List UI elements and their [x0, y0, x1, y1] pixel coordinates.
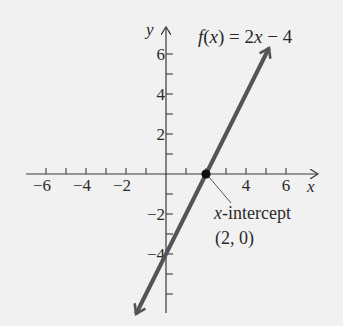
- y-tick-label: 6: [157, 45, 166, 64]
- x-intercept-coords: (2, 0): [215, 228, 254, 249]
- y-tick-label: 2: [157, 125, 166, 144]
- y-axis-label: y: [144, 20, 154, 39]
- y-axis-tick-labels: 642−2−4: [147, 45, 166, 264]
- y-tick-label: 4: [157, 85, 166, 104]
- x-axis-label: x: [306, 177, 315, 196]
- x-intercept-leader-line: [209, 177, 231, 203]
- y-tick-label: −2: [147, 205, 165, 224]
- x-tick-label: 4: [242, 176, 251, 195]
- x-tick-label: −4: [73, 176, 92, 195]
- chart-title: f(x) = 2x − 4: [198, 26, 293, 48]
- x-axis-tick-labels: −6−4−246: [33, 176, 290, 195]
- x-tick-label: −2: [113, 176, 131, 195]
- x-tick-label: 6: [282, 176, 291, 195]
- x-tick-label: −6: [33, 176, 51, 195]
- x-intercept-label: x-intercept: [213, 203, 291, 223]
- function-graph: −6−4−246 642−2−4 x y x-intercept (2, 0) …: [0, 0, 343, 326]
